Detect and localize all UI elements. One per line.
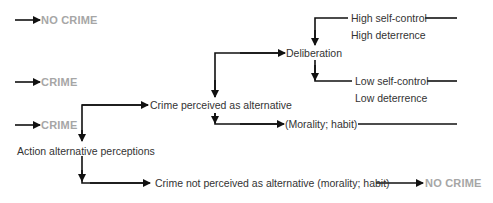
outcome-no-crime-top: NO CRIME [41,14,98,26]
node-high-self-control: High self-control [351,12,427,24]
node-crime-not-perceived: Crime not perceived as alternative (mora… [155,177,390,189]
node-low-deterrence: Low deterrence [355,92,427,104]
outcome-crime-lower: CRIME [41,119,77,131]
node-morality-habit: (Morality; habit) [285,118,357,130]
outcome-crime-middle: CRIME [41,76,77,88]
node-crime-perceived: Crime perceived as alternative [150,99,292,111]
node-deliberation: Deliberation [286,47,342,59]
node-action-alternative-perceptions: Action alternative perceptions [17,145,155,157]
outcome-no-crime-bottom: NO CRIME [425,177,482,189]
node-low-self-control: Low self-control [355,75,429,87]
node-high-deterrence: High deterrence [351,29,426,41]
